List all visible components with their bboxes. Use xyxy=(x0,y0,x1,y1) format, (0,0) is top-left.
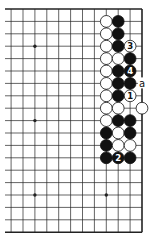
star-point xyxy=(105,193,108,196)
white-stone xyxy=(136,102,148,114)
white-stone: 3 xyxy=(124,40,136,52)
star-point xyxy=(33,193,36,196)
white-stone xyxy=(124,140,136,152)
white-stone xyxy=(100,40,112,52)
point-labels: a xyxy=(138,77,146,89)
move-number: 1 xyxy=(127,91,133,101)
black-stone xyxy=(112,16,124,28)
black-stone: 4 xyxy=(124,65,136,77)
black-stone xyxy=(112,28,124,40)
black-stone xyxy=(100,140,112,152)
black-stone: 2 xyxy=(112,152,124,164)
black-stone xyxy=(112,90,124,102)
black-stone xyxy=(100,152,112,164)
black-stone xyxy=(112,65,124,77)
black-stone xyxy=(112,40,124,52)
black-stone xyxy=(124,78,136,90)
white-stone xyxy=(112,127,124,139)
black-stone xyxy=(124,115,136,127)
go-board: 3412 a xyxy=(0,0,149,239)
black-stone xyxy=(124,53,136,65)
white-stone xyxy=(100,28,112,40)
white-stone xyxy=(112,140,124,152)
white-stone xyxy=(112,53,124,65)
black-stone xyxy=(124,127,136,139)
white-stone xyxy=(100,115,112,127)
move-number: 3 xyxy=(127,41,133,51)
point-label: a xyxy=(139,78,145,89)
black-stone xyxy=(124,152,136,164)
white-stone xyxy=(100,65,112,77)
white-stone xyxy=(100,78,112,90)
black-stone xyxy=(112,78,124,90)
black-stone xyxy=(112,115,124,127)
white-stone xyxy=(112,102,124,114)
black-stone xyxy=(100,127,112,139)
star-point xyxy=(33,45,36,48)
move-number: 2 xyxy=(115,153,121,163)
white-stone xyxy=(100,16,112,28)
white-stone xyxy=(100,53,112,65)
white-stone xyxy=(100,90,112,102)
star-point xyxy=(33,119,36,122)
white-stone xyxy=(100,102,112,114)
white-stone: 1 xyxy=(124,90,136,102)
stones: 3412 xyxy=(100,16,148,164)
move-number: 4 xyxy=(127,66,133,76)
